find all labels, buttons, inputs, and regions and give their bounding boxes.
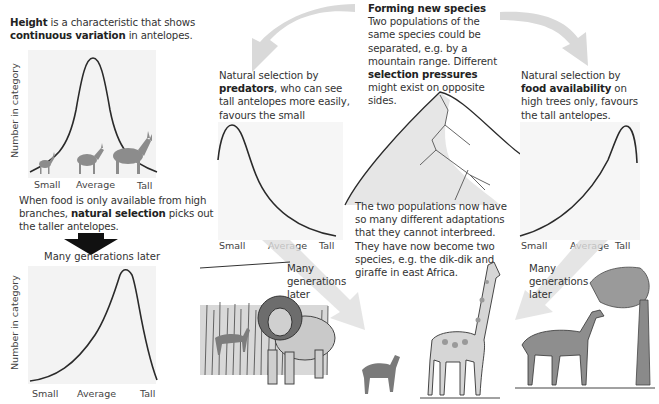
antelope-tree-illustration (0, 0, 659, 404)
